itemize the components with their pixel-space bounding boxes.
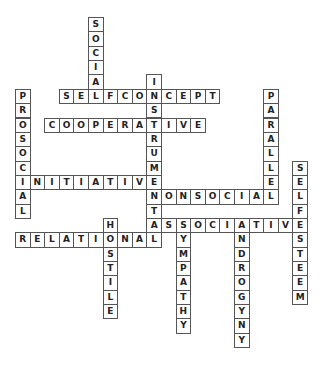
crossword-cell-relational: I [88,232,104,247]
crossword-cell-social: S [88,17,104,32]
crossword-cell-associative: C [205,218,221,233]
crossword-cell-selfconcept: S [59,89,75,104]
crossword-cell-selfesteem: L [292,189,308,204]
crossword-cell-selfesteem: M [292,290,308,305]
crossword-cell-hostile: L [103,290,119,305]
crossword-cell-instrumental-initiative: E [146,175,162,190]
crossword-cell-sympathy: Y [176,318,192,333]
crossword-cell-relational: A [132,232,148,247]
crossword-cell-cooperative: P [88,118,104,133]
crossword-cell-relational: E [30,232,46,247]
crossword-cell-hostile: S [103,247,119,262]
crossword-cell-nonsocial: A [249,189,265,204]
crossword-cell-associative-sympathy: S [176,218,192,233]
crossword-cell-parallel: A [263,132,279,147]
crossword-cell-parallel: E [263,175,279,190]
crossword-cell-cooperative: A [132,118,148,133]
crossword-cell-hostile: T [103,261,119,276]
crossword-cell-instrumental-relational: L [146,232,162,247]
crossword-cell-selfconcept: F [103,89,119,104]
crossword-cell-instrumental-cooperative: T [146,118,162,133]
crossword-cell-instrumental: M [146,161,162,176]
crossword-cell-selfesteem: E [292,275,308,290]
crossword-cell-cooperative: V [176,118,192,133]
crossword-cell-social: I [88,60,104,75]
crossword-cell-social: A [88,74,104,89]
crossword-cell-androgyny: D [234,247,250,262]
crossword-cell-instrumental: R [146,132,162,147]
crossword-cell-hostile: I [103,275,119,290]
crossword-cell-selfconcept: E [176,89,192,104]
crossword-cell-social-selfconcept: L [88,89,104,104]
crossword-cell-nonsocial: N [176,189,192,204]
crossword-cell-selfconcept: P [190,89,206,104]
crossword-cell-selfconcept: O [132,89,148,104]
crossword-cell-prosocial: R [15,103,31,118]
crossword-cell-androgyny: Y [234,304,250,319]
crossword-cell-parallel: R [263,118,279,133]
crossword-cell-selfconcept: T [205,89,221,104]
crossword-cell-instrumental-associative: A [146,218,162,233]
crossword-cell-initiative: V [132,175,148,190]
crossword-cell-prosocial: S [15,132,31,147]
crossword-cell-initiative: N [30,175,46,190]
crossword-cell-selfesteem: F [292,204,308,219]
crossword-cell-initiative: I [73,175,89,190]
crossword-cell-initiative: I [117,175,133,190]
crossword-cell-sympathy: Y [176,232,192,247]
crossword-cell-parallel: A [263,103,279,118]
crossword-cell-prosocial: C [15,161,31,176]
crossword-cell-sympathy: P [176,261,192,276]
crossword-cell-social: O [88,31,104,46]
crossword-cell-instrumental-nonsocial: N [146,189,162,204]
crossword-cell-androgyny: N [234,318,250,333]
crossword-cell-androgyny: O [234,275,250,290]
crossword-cell-hostile-relational: O [103,232,119,247]
crossword-cell-initiative: I [44,175,60,190]
crossword-cell-hostile: E [103,304,119,319]
crossword-cell-selfesteem: E [292,175,308,190]
crossword-cell-parallel: P [263,89,279,104]
crossword-cell-selfesteem: T [292,247,308,262]
crossword-cell-nonsocial: O [161,189,177,204]
crossword-cell-androgyny: Y [234,333,250,348]
crossword-cell-cooperative: O [73,118,89,133]
crossword-cell-hostile: H [103,218,119,233]
crossword-cell-relational: T [73,232,89,247]
crossword-cell-associative: T [249,218,265,233]
crossword-cell-prosocial: A [15,189,31,204]
crossword-cell-selfesteem-associative: E [292,218,308,233]
crossword-cell-androgyny: G [234,290,250,305]
crossword-cell-instrumental: T [146,204,162,219]
crossword-cell-cooperative: C [44,118,60,133]
crossword-cell-instrumental-selfconcept: N [146,89,162,104]
crossword-cell-nonsocial: S [190,189,206,204]
crossword-cell-prosocial: O [15,118,31,133]
crossword-cell-social: C [88,46,104,61]
crossword-cell-relational: R [15,232,31,247]
crossword-cell-sympathy: T [176,290,192,305]
crossword-cell-associative: I [263,218,279,233]
crossword-cell-initiative: T [59,175,75,190]
crossword-cell-relational: A [59,232,75,247]
crossword-grid: SOCIALINSTRUMENTALSEFCOCEPTPROSOCIALPARA… [0,0,326,369]
crossword-cell-prosocial-initiative: I [15,175,31,190]
crossword-cell-selfconcept: C [161,89,177,104]
crossword-cell-initiative: T [103,175,119,190]
crossword-cell-cooperative: E [190,118,206,133]
crossword-cell-selfconcept: E [73,89,89,104]
crossword-cell-prosocial: P [15,89,31,104]
crossword-cell-associative: O [190,218,206,233]
crossword-cell-nonsocial: C [219,189,235,204]
crossword-cell-relational: N [117,232,133,247]
crossword-cell-cooperative: O [59,118,75,133]
crossword-cell-sympathy: H [176,304,192,319]
crossword-cell-parallel: L [263,146,279,161]
crossword-cell-associative: V [278,218,294,233]
crossword-cell-selfesteem: E [292,261,308,276]
crossword-cell-prosocial: L [15,204,31,219]
crossword-cell-sympathy: M [176,247,192,262]
crossword-cell-cooperative: E [103,118,119,133]
crossword-cell-instrumental: S [146,103,162,118]
crossword-cell-nonsocial: O [205,189,221,204]
